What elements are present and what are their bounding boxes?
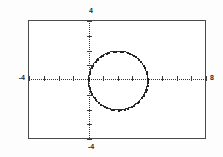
curve-point [135, 57, 136, 58]
curve-point [146, 71, 147, 72]
curve-point [143, 65, 144, 66]
curve-point [139, 59, 140, 60]
curve-point [145, 69, 146, 70]
x-axis-tick [44, 76, 45, 81]
curve-point [136, 57, 137, 58]
y-axis-max-label: 4 [84, 6, 98, 15]
curve-point [104, 54, 105, 55]
curve-point [113, 109, 115, 111]
curve-point [94, 97, 96, 99]
curve-point [146, 87, 147, 88]
curve-point [119, 109, 120, 110]
curve-point [104, 106, 105, 107]
curve-point [122, 109, 123, 110]
y-axis-min-label: -4 [84, 142, 98, 151]
curve-point [90, 91, 91, 92]
curve-point [116, 51, 117, 52]
curve-point [139, 100, 140, 101]
curve-point [105, 107, 106, 108]
curve-point [110, 109, 111, 110]
curve-point [137, 58, 138, 59]
curve-point [98, 102, 99, 103]
curve-point [93, 96, 94, 97]
curve-point [140, 99, 141, 100]
curve-point [100, 104, 102, 106]
curve-point [142, 96, 143, 97]
curve-point [90, 70, 91, 71]
curve-point [120, 109, 121, 110]
curve-point [124, 109, 125, 110]
y-axis-tick [87, 51, 92, 52]
curve-point [144, 92, 145, 93]
curve-point [142, 64, 143, 65]
curve-point [143, 66, 144, 67]
curve-point [125, 108, 126, 109]
curve-point [106, 53, 108, 55]
curve-point [143, 95, 144, 96]
curve-point [103, 105, 104, 106]
curve-point [144, 67, 145, 68]
curve-point [132, 54, 133, 55]
curve-point [91, 66, 92, 67]
curve-point [131, 106, 132, 107]
curve-point [118, 109, 119, 110]
curve-point [95, 61, 97, 63]
curve-point [107, 52, 108, 53]
curve-point [142, 63, 143, 64]
curve-point [118, 110, 120, 112]
curve-point [143, 94, 144, 95]
y-axis-tick [87, 95, 92, 96]
curve-point [130, 107, 131, 108]
curve-point [99, 103, 100, 104]
curve-point [146, 89, 148, 91]
curve-point [146, 74, 147, 75]
curve-point [118, 109, 119, 110]
curve-point [139, 60, 140, 61]
x-axis-tick [147, 76, 148, 81]
curve-point [109, 52, 110, 53]
curve-point [117, 109, 118, 110]
curve-point [146, 88, 147, 89]
curve-point [128, 108, 129, 109]
curve-point [117, 51, 118, 52]
x-axis-tick [162, 76, 163, 81]
curve-point [130, 53, 131, 54]
curve-point [102, 105, 103, 106]
curve-point [109, 108, 110, 109]
curve-point [114, 51, 115, 52]
curve-point [145, 90, 146, 91]
x-axis-tick [59, 76, 60, 81]
curve-point [141, 62, 142, 63]
curve-point [92, 94, 93, 95]
y-axis-tick [87, 21, 92, 22]
curve-point [138, 101, 140, 103]
curve-point [93, 63, 94, 64]
curve-point [145, 89, 146, 90]
curve-point [125, 109, 126, 110]
curve-point [107, 53, 108, 54]
curve-point [90, 70, 91, 71]
x-axis-max-label: 8 [210, 73, 222, 82]
curve-point [143, 95, 145, 97]
curve-point [147, 81, 148, 82]
curve-point [90, 69, 91, 70]
curve-point [135, 104, 136, 105]
curve-point [135, 103, 136, 104]
curve-point [145, 70, 146, 71]
y-axis-tick [87, 139, 92, 140]
curve-point [143, 65, 145, 67]
curve-point [92, 65, 93, 66]
curve-point [128, 108, 129, 109]
x-axis-min-label: -4 [5, 73, 25, 82]
x-axis-tick [132, 76, 133, 81]
curve-point [103, 106, 104, 107]
curve-point [97, 59, 99, 61]
x-axis-tick [206, 76, 207, 81]
curve-point [107, 108, 108, 109]
curve-point [114, 109, 115, 110]
curve-point [141, 62, 142, 63]
curve-point [146, 88, 147, 89]
curve-point [91, 93, 92, 94]
curve-point [138, 59, 140, 61]
curve-point [136, 57, 137, 58]
